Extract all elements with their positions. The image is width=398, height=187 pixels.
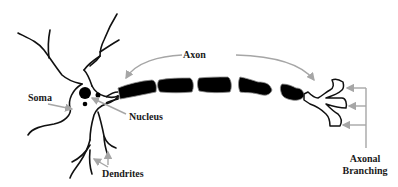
dendrites-arrow-left <box>94 159 108 167</box>
soma-arrow <box>48 104 72 109</box>
axon-segment-1 <box>118 80 156 99</box>
axonal-branching-label-line2: Branching <box>336 165 394 177</box>
nucleus <box>79 87 91 99</box>
axon-segment-4 <box>239 77 273 95</box>
axon-segments <box>118 77 304 100</box>
neuron-illustration <box>0 0 398 187</box>
neuron-diagram: Axon Soma Nucleus Dendrites Axonal Branc… <box>0 0 398 187</box>
axon-segment-5 <box>280 84 304 100</box>
axon-label: Axon <box>183 49 206 61</box>
soma-label: Soma <box>28 92 52 104</box>
nucleus-group <box>79 87 101 106</box>
dendrites-label: Dendrites <box>102 168 144 180</box>
axonal-branching-label-line1: Axonal <box>340 153 390 165</box>
axon-arrow-left <box>126 55 182 78</box>
nucleus-arrow <box>92 98 126 114</box>
axon-segment-2 <box>158 78 194 93</box>
axon-segment-3 <box>198 77 232 93</box>
nucleus-label: Nucleus <box>129 111 163 123</box>
dendrites-upper <box>18 14 119 98</box>
axon-arrow-right <box>236 55 314 80</box>
axonal-terminals <box>304 79 346 126</box>
